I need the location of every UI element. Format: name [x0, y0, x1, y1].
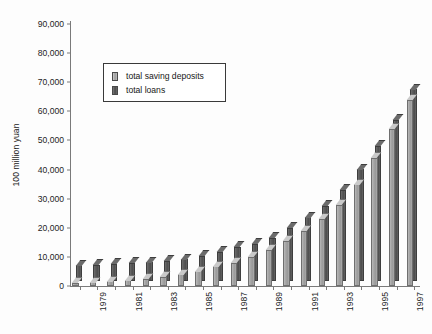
bar-deposits-1986-face: [213, 266, 219, 286]
y-axis-tick-mark: [67, 227, 71, 228]
x-axis-tick-label: 1983: [169, 292, 179, 311]
bar-group-1995: [371, 24, 389, 286]
bar-deposits-1985-face: [195, 271, 201, 286]
bar-deposits-1992-face: [319, 219, 325, 286]
bar-loans-1979-top: [93, 259, 104, 265]
x-axis-tick-mark: [273, 286, 274, 290]
bar-deposits-1979: [90, 282, 96, 286]
bar-loans-1984-top: [181, 254, 192, 260]
bar-deposits-1983-face: [160, 277, 166, 286]
y-axis-tick-label: 80,000: [0, 48, 70, 58]
x-axis-tick-mark: [133, 286, 134, 290]
x-axis-tick-mark: [291, 286, 292, 290]
y-axis-tick-mark: [67, 256, 71, 257]
x-axis-tick-mark: [150, 286, 151, 290]
x-axis-tick-mark: [115, 286, 116, 290]
bar-loans-1996-top: [393, 114, 404, 120]
bar-deposits-1978-face: [72, 283, 78, 286]
legend-label-deposits: total saving deposits: [126, 71, 204, 81]
bar-group-1989: [266, 24, 284, 286]
bar-deposits-1997: [407, 100, 413, 286]
bar-deposits-1988-face: [248, 257, 254, 286]
y-axis-tick-label: 50,000: [0, 135, 70, 145]
y-axis-tick-mark: [67, 82, 71, 83]
legend-item-loans: total loans: [112, 83, 225, 97]
bar-group-1993: [336, 24, 354, 286]
bar-group-1988: [248, 24, 266, 286]
bar-deposits-1981-face: [125, 280, 131, 286]
bar-deposits-1995-face: [371, 158, 377, 286]
bar-deposits-1980-face: [107, 281, 113, 286]
y-axis-tick-mark: [67, 286, 71, 287]
bar-group-1994: [354, 24, 372, 286]
y-axis-tick-label: 70,000: [0, 77, 70, 87]
bar-loans-1980-top: [111, 258, 122, 264]
y-axis-tick-label: 60,000: [0, 106, 70, 116]
bar-deposits-1991-face: [301, 231, 307, 286]
legend-item-deposits: total saving deposits: [112, 69, 225, 83]
bar-deposits-1984-face: [178, 274, 184, 286]
x-axis-tick-label: 1993: [345, 292, 355, 311]
x-axis-tick-label: 1995: [380, 292, 390, 311]
x-axis-tick-label: 1997: [415, 292, 425, 311]
loans-swatch-icon: [112, 86, 118, 95]
bar-chart-figure: 100 million yuan 010,00020,00030,00040,0…: [0, 0, 432, 334]
x-axis-tick-mark: [168, 286, 169, 290]
bar-deposits-1978: [72, 283, 78, 286]
bar-deposits-1990-face: [283, 241, 289, 286]
x-axis-tick-mark: [309, 286, 310, 290]
bar-deposits-1990: [283, 241, 289, 286]
y-axis-tick-label: 30,000: [0, 194, 70, 204]
x-axis-tick-mark: [397, 286, 398, 290]
bar-loans-1981-top: [129, 257, 140, 263]
bar-loans-1991-top: [305, 212, 316, 218]
bar-group-1996: [389, 24, 407, 286]
bar-loans-1986-top: [217, 246, 228, 252]
x-axis-tick-mark: [414, 286, 415, 290]
x-axis-tick-mark: [203, 286, 204, 290]
bar-deposits-1991: [301, 231, 307, 286]
bar-deposits-1992: [319, 219, 325, 286]
bar-deposits-1996: [389, 129, 395, 286]
bar-deposits-1993-face: [336, 205, 342, 287]
y-axis-tick-label: 90,000: [0, 19, 70, 29]
legend-label-loans: total loans: [126, 85, 165, 95]
y-axis-tick-mark: [67, 140, 71, 141]
bar-deposits-1983: [160, 277, 166, 286]
bar-loans-1994-top: [357, 164, 368, 170]
bar-group-1978: [72, 24, 90, 286]
y-axis-tick-mark: [67, 111, 71, 112]
bar-deposits-1997-face: [407, 100, 413, 286]
bar-deposits-1984: [178, 274, 184, 286]
bar-deposits-1994-face: [354, 184, 360, 286]
bar-deposits-1985: [195, 271, 201, 286]
y-axis-tick-label: 10,000: [0, 252, 70, 262]
bar-loans-1985-top: [199, 250, 210, 256]
bar-deposits-1986: [213, 266, 219, 286]
bar-loans-1990-top: [287, 222, 298, 228]
y-axis-tick-label: 40,000: [0, 165, 70, 175]
y-axis-tick-label: 0: [0, 281, 70, 291]
bar-deposits-1981: [125, 280, 131, 286]
y-axis-tick-mark: [67, 53, 71, 54]
y-axis-tick-mark: [67, 24, 71, 25]
bar-deposits-1994: [354, 184, 360, 286]
bar-deposits-1987: [231, 263, 237, 286]
bar-loans-1989-top: [269, 232, 280, 238]
bar-deposits-1996-face: [389, 129, 395, 286]
bar-loans-1993-top: [340, 184, 351, 190]
x-axis-tick-mark: [185, 286, 186, 290]
bar-deposits-1989: [266, 250, 272, 286]
x-axis-tick-mark: [344, 286, 345, 290]
x-axis-tick-mark: [80, 286, 81, 290]
x-axis-tick-label: 1981: [134, 292, 144, 311]
x-axis-tick-mark: [238, 286, 239, 290]
bar-loans-1982-top: [146, 257, 157, 263]
bar-deposits-1989-face: [266, 250, 272, 286]
bar-group-1992: [319, 24, 337, 286]
bar-deposits-1993: [336, 205, 342, 287]
bar-loans-1997-top: [410, 84, 421, 90]
x-axis-tick-label: 1979: [98, 292, 108, 311]
x-axis-tick-mark: [221, 286, 222, 290]
x-axis-tick-mark: [326, 286, 327, 290]
